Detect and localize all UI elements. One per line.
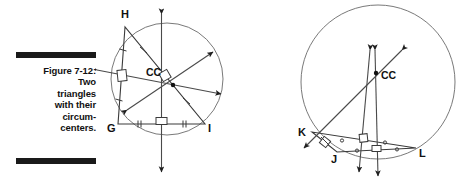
vertex-label-g: G xyxy=(107,122,116,134)
caption-line-2: Two xyxy=(0,76,96,87)
tick-kl-right xyxy=(383,141,386,144)
tick-gh-lower xyxy=(116,99,123,101)
circumcenter-dot-right xyxy=(374,71,378,75)
caption-line-6: centers. xyxy=(0,122,96,133)
diagram-left-triangle-ghi: H G I CC xyxy=(95,0,235,182)
vertex-label-k: K xyxy=(298,126,306,138)
figure-caption-text: Figure 7-12: Two triangles with their ci… xyxy=(0,65,100,133)
caption-line-4: with their xyxy=(0,99,96,110)
caption-line-3: triangles xyxy=(0,88,96,99)
vertex-label-j: J xyxy=(331,153,337,165)
vertex-label-l: L xyxy=(419,147,426,159)
vertex-label-h: H xyxy=(121,8,129,20)
perpendicular-bisector-jl xyxy=(375,50,378,176)
tick-hi-lower xyxy=(183,98,190,104)
circumcenter-label-left: CC xyxy=(146,66,162,78)
caption-rule-top xyxy=(16,52,96,58)
perpendicular-bisector-kj xyxy=(304,50,402,148)
figure-caption-block: Figure 7-12: Two triangles with their ci… xyxy=(0,52,100,133)
caption-line-5: circum- xyxy=(0,111,96,122)
right-angle-mark-kl xyxy=(359,134,368,143)
right-angle-mark-jl xyxy=(372,146,381,152)
circumcenter-dot-left xyxy=(171,83,175,87)
vertex-label-i: I xyxy=(208,122,211,134)
tick-kl-left xyxy=(340,139,343,142)
right-angle-mark-gi xyxy=(156,118,167,125)
right-angle-mark-gh xyxy=(117,70,127,82)
diagram-right-triangle-kjl: K J L CC xyxy=(280,0,463,182)
tick-hi-upper xyxy=(140,47,147,53)
caption-line-1: Figure 7-12: xyxy=(0,65,96,76)
figure-container: Figure 7-12: Two triangles with their ci… xyxy=(0,0,463,182)
caption-rule-bottom xyxy=(16,158,96,164)
circumcenter-label-right: CC xyxy=(381,69,397,81)
perpendicular-bisector-kl xyxy=(359,50,370,172)
perpendicular-bisector-hi xyxy=(127,52,213,110)
